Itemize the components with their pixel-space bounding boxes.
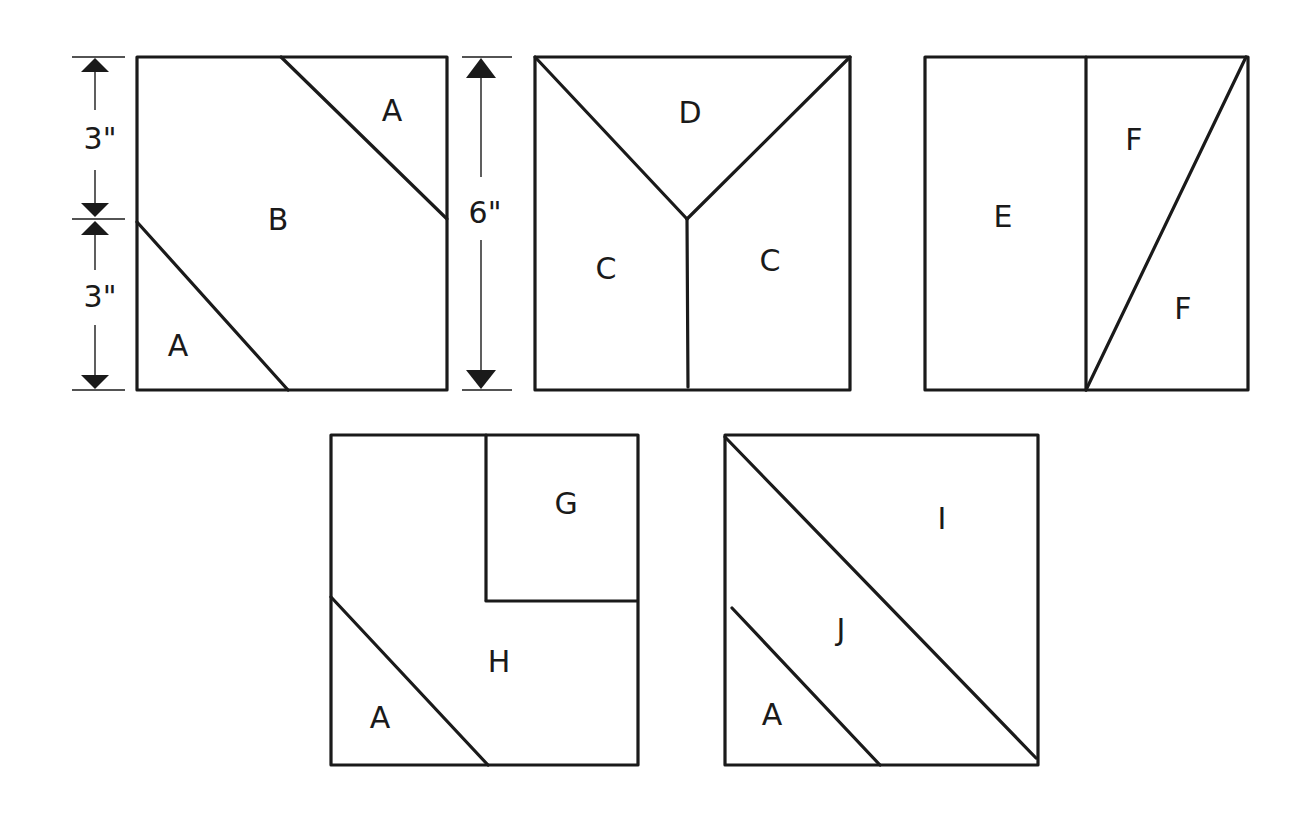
- piece-label-b: B: [268, 202, 289, 237]
- block-3: E F F: [925, 57, 1248, 390]
- piece-label-g: G: [554, 486, 577, 521]
- arrow-up-icon: [466, 58, 496, 78]
- dimension-label-upper: 3": [84, 121, 117, 156]
- dimension-markers-3-inch: 3" 3": [72, 57, 125, 390]
- quilt-pattern-diagram: 3" 3" A B A 6" D C C E F F: [0, 0, 1310, 820]
- piece-label-h: H: [488, 644, 511, 679]
- piece-label-a: A: [370, 700, 391, 735]
- piece-label-a-bottom: A: [168, 328, 189, 363]
- arrow-down-icon: [81, 203, 109, 217]
- dimension-marker-6-inch: 6": [462, 57, 512, 390]
- block-4: G H A: [331, 435, 638, 765]
- dimension-label-lower: 3": [84, 279, 117, 314]
- piece-label-f-bottom: F: [1174, 291, 1191, 326]
- piece-label-f-top: F: [1125, 122, 1142, 157]
- arrow-up-icon: [81, 221, 109, 235]
- piece-label-i: I: [938, 501, 947, 536]
- arrow-down-icon: [81, 375, 109, 389]
- piece-label-a: A: [762, 697, 783, 732]
- piece-label-a-top: A: [382, 93, 403, 128]
- piece-label-c-right: C: [760, 243, 781, 278]
- dimension-label-full: 6": [469, 195, 502, 230]
- piece-label-d: D: [678, 95, 701, 130]
- block-1: A B A: [137, 57, 447, 390]
- block-5: I J A: [725, 435, 1038, 765]
- piece-label-c-left: C: [596, 251, 617, 286]
- piece-label-e: E: [994, 199, 1013, 234]
- arrow-down-icon: [466, 370, 496, 389]
- piece-label-j: J: [835, 612, 846, 647]
- arrow-up-icon: [81, 58, 109, 72]
- block-2: D C C: [535, 57, 850, 390]
